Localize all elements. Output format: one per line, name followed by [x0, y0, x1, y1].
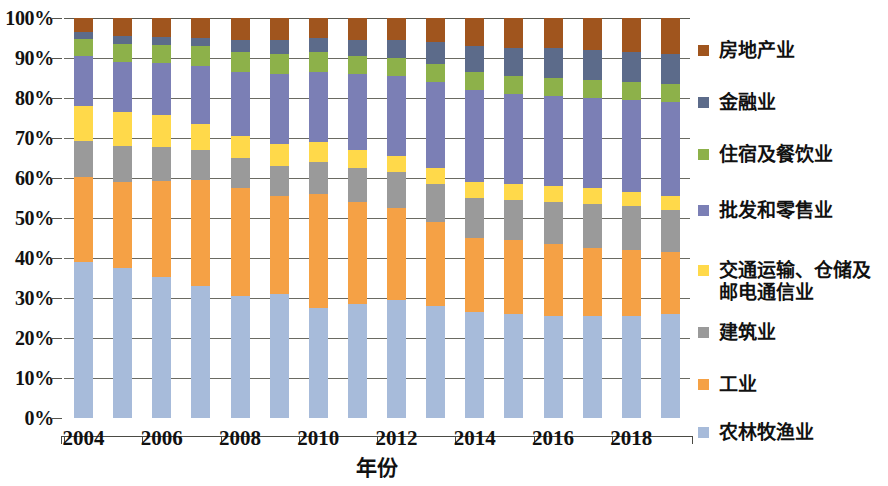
bar: [74, 18, 93, 418]
bar-segment: [426, 64, 445, 82]
bar-segment: [309, 18, 328, 38]
y-axis-tick: [51, 178, 62, 179]
bar-segment: [465, 238, 484, 312]
legend: 房地产业金融业住宿及餐饮业批发和零售业交通运输、仓储及 邮电通信业建筑业工业农林…: [698, 22, 888, 432]
bar-segment: [152, 115, 171, 147]
x-axis-tick-label: 2006: [141, 428, 183, 449]
bar-segment: [583, 18, 602, 50]
bar-segment: [231, 40, 250, 52]
bar-segment: [231, 72, 250, 136]
bar-segment: [583, 316, 602, 418]
bar-segment: [152, 277, 171, 418]
bar-segment: [426, 184, 445, 222]
x-axis-title: 年份: [64, 458, 690, 479]
y-axis-tick: [51, 378, 62, 379]
bar-segment: [426, 222, 445, 306]
y-axis-tick: [51, 338, 62, 339]
y-axis-tick-label: 40%: [15, 248, 54, 268]
bar-segment: [152, 18, 171, 37]
bar-segment: [152, 63, 171, 115]
bar-segment: [504, 200, 523, 240]
bar-segment: [113, 268, 132, 418]
bar-segment: [504, 240, 523, 314]
bar-segment: [191, 66, 210, 124]
y-axis-tick-label: 30%: [15, 288, 54, 308]
bar-segment: [504, 184, 523, 200]
bar-segment: [504, 94, 523, 184]
bar-segment: [661, 54, 680, 84]
legend-item[interactable]: 农林牧渔业: [698, 422, 814, 444]
bar-segment: [544, 202, 563, 244]
bar-segment: [544, 244, 563, 316]
bar-segment: [661, 314, 680, 418]
legend-label: 交通运输、仓储及 邮电通信业: [719, 260, 871, 304]
legend-item[interactable]: 金融业: [698, 92, 776, 114]
y-axis-tick-label: 50%: [15, 208, 54, 228]
bar-segment: [504, 314, 523, 418]
bar: [113, 18, 132, 418]
bar-segment: [74, 141, 93, 177]
bar-segment: [544, 316, 563, 418]
bar: [504, 18, 523, 418]
bar-segment: [113, 182, 132, 268]
bar-segment: [348, 168, 367, 202]
bar: [231, 18, 250, 418]
y-axis-tick: [51, 258, 62, 259]
legend-swatch-icon: [698, 205, 709, 216]
bar-segment: [387, 208, 406, 300]
bar-segment: [426, 168, 445, 184]
bar: [348, 18, 367, 418]
bar-segment: [113, 146, 132, 182]
bar-segment: [622, 250, 641, 316]
bar-segment: [348, 40, 367, 56]
y-axis-tick: [51, 138, 62, 139]
bar: [583, 18, 602, 418]
bar-segment: [661, 18, 680, 54]
bar-segment: [387, 40, 406, 58]
legend-item[interactable]: 住宿及餐饮业: [698, 144, 833, 166]
legend-item[interactable]: 批发和零售业: [698, 200, 833, 222]
y-axis-tick: [51, 98, 62, 99]
y-axis-tick: [51, 58, 62, 59]
bar: [309, 18, 328, 418]
legend-swatch-icon: [698, 327, 709, 338]
bar-segment: [231, 52, 250, 72]
bar: [544, 18, 563, 418]
legend-item[interactable]: 交通运输、仓储及 邮电通信业: [698, 260, 871, 304]
legend-swatch-icon: [698, 97, 709, 108]
bar-segment: [309, 308, 328, 418]
bar-segment: [270, 54, 289, 74]
bar-segment: [231, 188, 250, 296]
legend-item[interactable]: 房地产业: [698, 40, 795, 62]
bar-segment: [309, 52, 328, 72]
bar-segment: [544, 96, 563, 186]
bar-segment: [426, 18, 445, 42]
bar-segment: [152, 45, 171, 63]
bar-segment: [465, 18, 484, 46]
legend-label: 工业: [719, 374, 757, 396]
legend-swatch-icon: [698, 45, 709, 56]
bar: [426, 18, 445, 418]
bar-segment: [583, 188, 602, 204]
bar-segment: [348, 150, 367, 168]
legend-swatch-icon: [698, 265, 709, 276]
legend-item[interactable]: 工业: [698, 374, 757, 396]
x-axis-tick-label: 2014: [454, 428, 496, 449]
y-axis-tick: [51, 298, 62, 299]
bar-segment: [191, 18, 210, 38]
bar-segment: [387, 76, 406, 156]
bar-segment: [113, 44, 132, 62]
bar-segment: [661, 196, 680, 210]
bar-segment: [74, 177, 93, 262]
bar-segment: [309, 142, 328, 162]
bar: [387, 18, 406, 418]
bar-segment: [152, 181, 171, 277]
bar-segment: [348, 74, 367, 150]
bar-segment: [270, 18, 289, 40]
x-axis-tick-label: 2018: [610, 428, 652, 449]
legend-item[interactable]: 建筑业: [698, 322, 776, 344]
bar-segment: [465, 90, 484, 182]
legend-label: 房地产业: [719, 40, 795, 62]
bar-segment: [113, 18, 132, 36]
y-axis-tick: [51, 418, 62, 419]
